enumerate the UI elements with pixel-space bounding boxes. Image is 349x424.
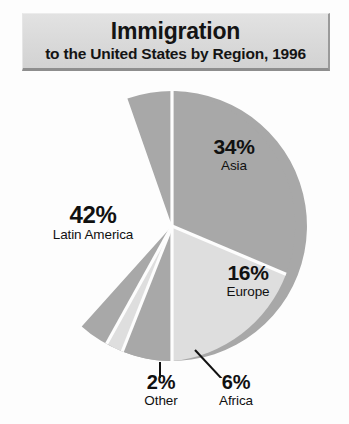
pie-label-africa-name: Africa <box>196 394 276 408</box>
pie-label-other: 2% Other <box>124 372 198 408</box>
pie-label-latin-america-value: 42% <box>22 202 164 227</box>
pie-label-europe-name: Europe <box>200 285 296 299</box>
pie-label-other-name: Other <box>124 394 198 408</box>
chart-title-plate: Immigration to the United States by Regi… <box>22 13 330 71</box>
pie-label-latin-america: 42% Latin America <box>22 202 164 242</box>
pie-label-other-value: 2% <box>124 372 198 393</box>
pie-label-africa-value: 6% <box>196 372 276 393</box>
pie-label-europe: 16% Europe <box>200 262 296 299</box>
pie-label-asia: 34% Asia <box>186 136 282 173</box>
pie-label-asia-value: 34% <box>186 136 282 158</box>
page-title: Immigration <box>111 19 240 43</box>
chart-page: Immigration to the United States by Regi… <box>0 0 349 424</box>
pie-label-europe-value: 16% <box>200 262 296 284</box>
pie-label-africa: 6% Africa <box>196 372 276 408</box>
page-subtitle: to the United States by Region, 1996 <box>45 45 306 63</box>
pie-label-latin-america-name: Latin America <box>22 228 164 242</box>
pie-label-asia-name: Asia <box>186 159 282 173</box>
